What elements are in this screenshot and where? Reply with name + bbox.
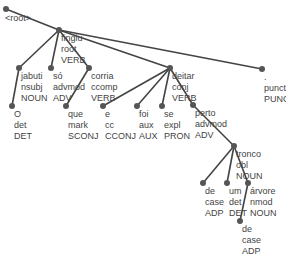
node-label-de1: decaseADP — [205, 186, 224, 219]
node-word: árvore — [250, 186, 277, 197]
node-label-punct: .punctPUNCT — [264, 72, 286, 105]
node-rel: conj — [172, 82, 197, 93]
node-rel: cc — [105, 120, 136, 131]
node-label-deitar: deitarconjVERB — [172, 71, 197, 104]
node-word: e — [105, 109, 136, 120]
node-word: corria — [91, 71, 118, 82]
node-word: jabuti — [21, 71, 48, 82]
node-label-foi: foiauxAUX — [139, 109, 158, 142]
node-label-que: quemarkSCONJ — [68, 109, 99, 142]
node-rel: nmod — [250, 197, 277, 208]
node-rel: nsubj — [21, 82, 48, 93]
node-label-so: sóadvmodADV — [53, 71, 85, 104]
node-label-tronco: troncooblNOUN — [236, 149, 263, 182]
node-word: só — [53, 71, 85, 82]
node-pos: DET — [14, 131, 32, 142]
node-pos: NOUN — [21, 93, 48, 104]
node-label-arvore: árvorenmodNOUN — [250, 186, 277, 219]
node-dot-root — [3, 6, 9, 12]
node-rel: case — [205, 197, 224, 208]
edge-foi — [137, 68, 170, 106]
node-rel: ccomp — [91, 82, 118, 93]
node-rel: mark — [68, 120, 99, 131]
node-pos: DET — [229, 208, 247, 219]
node-pos: ADV — [195, 130, 227, 141]
node-pos: VERB — [61, 55, 86, 66]
node-rel: obl — [236, 160, 263, 171]
node-rel: advmod — [195, 119, 227, 130]
node-label-corria: corriaccompVERB — [91, 71, 118, 104]
node-word: se — [164, 109, 190, 120]
node-word: . — [264, 72, 286, 83]
node-pos: VERB — [172, 93, 197, 104]
node-word: de — [205, 186, 224, 197]
node-label-perto: pertoadvmodADV — [195, 108, 227, 141]
node-word: fingiu — [61, 33, 86, 44]
node-pos: PRON — [164, 131, 190, 142]
node-label-de2: decaseADP — [242, 224, 261, 257]
node-label-um: umdetDET — [229, 186, 247, 219]
node-label-root: <root> — [5, 13, 31, 24]
node-pos: NOUN — [250, 208, 277, 219]
node-word: de — [242, 224, 261, 235]
node-word: um — [229, 186, 247, 197]
node-rel: aux — [139, 120, 158, 131]
node-word: tronco — [236, 149, 263, 160]
node-label-O: OdetDET — [14, 109, 32, 142]
node-pos: PUNCT — [264, 94, 286, 105]
node-pos: ADP — [242, 246, 261, 257]
node-rel: case — [242, 235, 261, 246]
edge-de1 — [203, 146, 234, 183]
node-rel: advmod — [53, 82, 85, 93]
node-rel: punct — [264, 83, 286, 94]
node-word: perto — [195, 108, 227, 119]
edge-um — [227, 146, 234, 183]
node-word: deitar — [172, 71, 197, 82]
node-rel: det — [14, 120, 32, 131]
node-rel: expl — [164, 120, 190, 131]
node-pos: ADV — [53, 93, 85, 104]
edge-punct — [59, 30, 262, 69]
node-pos: NOUN — [236, 171, 263, 182]
node-pos: SCONJ — [68, 131, 99, 142]
node-label-e: eccCCONJ — [105, 109, 136, 142]
node-label-se: seexplPRON — [164, 109, 190, 142]
node-rel: root — [61, 44, 86, 55]
node-pos: AUX — [139, 131, 158, 142]
node-label-fingiu: fingiurootVERB — [61, 33, 86, 66]
node-rel: det — [229, 197, 247, 208]
node-word: <root> — [5, 13, 31, 24]
node-word: que — [68, 109, 99, 120]
node-word: foi — [139, 109, 158, 120]
node-pos: CCONJ — [105, 131, 136, 142]
node-pos: VERB — [91, 93, 118, 104]
node-pos: ADP — [205, 208, 224, 219]
node-word: O — [14, 109, 32, 120]
edge-O — [12, 68, 19, 106]
node-label-jabuti: jabutinsubjNOUN — [21, 71, 48, 104]
